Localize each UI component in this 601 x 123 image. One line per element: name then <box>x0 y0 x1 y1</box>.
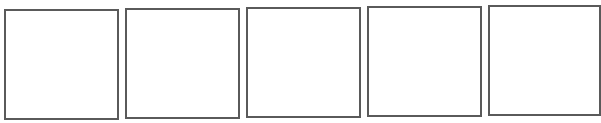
empty-frame-2 <box>125 8 240 119</box>
empty-frame-3 <box>246 7 361 118</box>
empty-frame-1 <box>4 9 119 120</box>
empty-frame-5 <box>488 5 601 116</box>
empty-frame-4 <box>367 6 482 117</box>
